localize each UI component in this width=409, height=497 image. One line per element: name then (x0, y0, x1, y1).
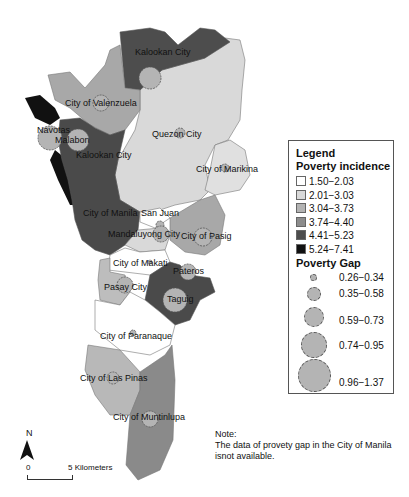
gap-circle-icon (301, 332, 327, 358)
label-quezon: Quezon City (152, 129, 202, 139)
label-paranaque: City of Paranaque (100, 331, 172, 341)
gap-circle-icon (298, 359, 331, 392)
incidence-class: 2.01−3.03 (296, 189, 354, 201)
range-label: 4.41−5.23 (309, 230, 354, 241)
swatch (296, 203, 306, 213)
note: Note: The data of provety gap in the Cit… (215, 429, 409, 462)
swatch (296, 217, 306, 227)
scale-end: 5 Kilometers (68, 463, 112, 472)
incidence-class: 3.74−4.40 (296, 216, 354, 228)
label-muntinlupa: City of Muntinlupa (113, 412, 185, 422)
range-label: 0.59−0.73 (339, 315, 384, 326)
north-label: N (26, 428, 33, 438)
incidence-class: 1.50−2.03 (296, 175, 354, 187)
range-label: 0.35−0.58 (339, 288, 384, 299)
label-kalookan-north: Kalookan City (135, 47, 191, 57)
range-label: 0.74−0.95 (339, 340, 384, 351)
swatch (296, 244, 306, 254)
label-pasay: Pasay City (104, 282, 148, 292)
swatch (296, 176, 306, 186)
label-makati: City of Makati (113, 258, 168, 268)
range-label: 3.74−4.40 (309, 217, 354, 228)
label-marikina: City of Marikina (196, 164, 258, 174)
incidence-title: Poverty incidence (296, 160, 390, 172)
gap-circle-icon (304, 307, 324, 327)
scale-bar (27, 475, 73, 480)
incidence-class: 4.41−5.23 (296, 229, 354, 241)
gap-circle-icon (307, 287, 321, 301)
legend-title: Legend (296, 147, 335, 159)
range-label: 2.01−3.03 (309, 190, 354, 201)
gap-title: Poverty Gap (296, 257, 361, 269)
label-manila: City of Manila (83, 208, 138, 218)
north-arrow-icon (20, 440, 34, 460)
swatch (296, 190, 306, 200)
label-mandaluyong: Mandaluyong City (108, 229, 181, 239)
note-text: The data of provety gap in the City of M… (215, 440, 409, 462)
label-las-pinas: City of Las Pinas (80, 373, 148, 383)
incidence-class: 5.24−7.41 (296, 243, 354, 255)
label-taguig: Taguig (167, 294, 194, 304)
scale-start: 0 (26, 463, 30, 472)
label-pasig: City of Pasig (181, 231, 232, 241)
label-malabon: Malabon (55, 135, 90, 145)
swatch (296, 230, 306, 240)
gap-circle-icon (310, 274, 317, 281)
legend: Legend Poverty incidence 1.50−2.03 2.01−… (288, 140, 394, 394)
label-valenzuela: City of Valenzuela (65, 98, 137, 108)
range-label: 0.96−1.37 (339, 377, 384, 388)
incidence-class: 3.04−3.73 (296, 202, 354, 214)
range-label: 0.26−0.34 (339, 272, 384, 283)
note-title: Note: (215, 429, 409, 440)
range-label: 3.04−3.73 (309, 203, 354, 214)
label-navotas: Navotas (37, 125, 71, 135)
range-label: 5.24−7.41 (309, 244, 354, 255)
range-label: 1.50−2.03 (309, 176, 354, 187)
label-kalookan-south: Kalookan City (76, 150, 132, 160)
label-san-juan: San Juan (141, 208, 179, 218)
label-pateros: Pateros (173, 266, 205, 276)
